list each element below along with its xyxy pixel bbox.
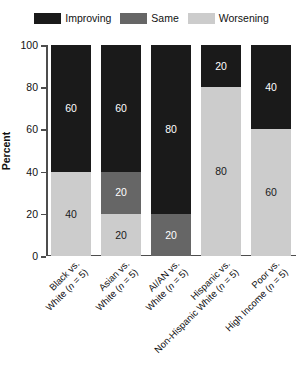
legend-label: Same — [151, 13, 178, 24]
bar-segment-improving[interactable]: 20 — [201, 45, 241, 87]
legend-swatch-improving — [34, 13, 61, 24]
bar-value-label: 80 — [165, 124, 177, 135]
bar-value-label: 40 — [65, 209, 77, 220]
y-tick-label: 0 — [32, 251, 38, 262]
stacked-bar-chart: ImprovingSameWorsening Percent 100806040… — [0, 0, 303, 368]
legend-item-worsening[interactable]: Worsening — [188, 13, 269, 24]
x-axis-label: Black vs.White (n = 5) — [35, 258, 90, 313]
legend-swatch-worsening — [188, 13, 215, 24]
legend-swatch-same — [120, 13, 147, 24]
x-axis-labels: Black vs.White (n = 5)Asian vs.White (n … — [46, 258, 296, 368]
bar-value-label: 60 — [115, 103, 127, 114]
bar-value-label: 40 — [265, 82, 277, 93]
bar-value-label: 80 — [215, 166, 227, 177]
bar-segment-worsening[interactable]: 40 — [51, 172, 91, 256]
bar-group[interactable]: 2080 — [201, 45, 241, 256]
legend-item-improving[interactable]: Improving — [34, 13, 111, 24]
y-tick-label: 100 — [20, 40, 38, 51]
bar-value-label: 20 — [115, 187, 127, 198]
plot-area: Percent 100806040200 6040602020802020804… — [46, 45, 296, 256]
bar-group[interactable]: 8020 — [151, 45, 191, 256]
legend-label: Improving — [65, 13, 111, 24]
y-tick-label: 20 — [26, 209, 38, 220]
bar-segment-worsening[interactable]: 20 — [101, 214, 141, 256]
legend-label: Worsening — [219, 13, 269, 24]
y-tick-label: 80 — [26, 82, 38, 93]
bar-value-label: 60 — [265, 187, 277, 198]
bar-series-container: 6040602020802020804060 — [46, 45, 296, 256]
bar-segment-improving[interactable]: 60 — [51, 45, 91, 172]
legend-item-same[interactable]: Same — [120, 13, 178, 24]
chart-legend: ImprovingSameWorsening — [0, 13, 303, 24]
bar-value-label: 20 — [215, 61, 227, 72]
bar-segment-worsening[interactable]: 80 — [201, 87, 241, 256]
bar-segment-improving[interactable]: 60 — [101, 45, 141, 172]
bar-group[interactable]: 6040 — [51, 45, 91, 256]
bar-value-label: 60 — [65, 103, 77, 114]
bar-value-label: 20 — [115, 230, 127, 241]
bar-segment-same[interactable]: 20 — [101, 172, 141, 214]
bar-segment-same[interactable]: 20 — [151, 214, 191, 256]
bar-segment-improving[interactable]: 40 — [251, 45, 291, 129]
y-axis-title: Percent — [0, 131, 12, 170]
bar-group[interactable]: 4060 — [251, 45, 291, 256]
y-tick-label: 60 — [26, 124, 38, 135]
x-axis-label: Asian vs.White (n = 5) — [85, 258, 140, 313]
bar-segment-worsening[interactable]: 60 — [251, 129, 291, 256]
bar-group[interactable]: 602020 — [101, 45, 141, 256]
bar-value-label: 20 — [165, 230, 177, 241]
bar-segment-improving[interactable]: 80 — [151, 45, 191, 214]
y-tick-label: 40 — [26, 166, 38, 177]
